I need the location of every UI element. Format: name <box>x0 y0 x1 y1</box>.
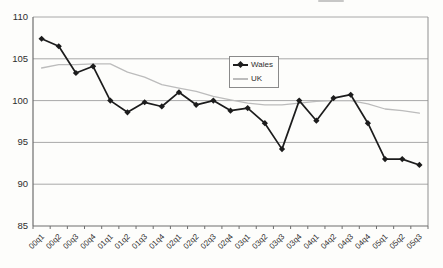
line-chart-figure: 85909510010511000q100q200q300q401q101q20… <box>0 0 443 268</box>
x-axis-label-01q1: 01q1 <box>96 232 115 251</box>
x-axis-label-00q3: 00q3 <box>61 232 80 251</box>
wales-data-point-05q2 <box>399 156 405 162</box>
y-axis-label-105: 105 <box>12 53 28 64</box>
legend-label-uk: UK <box>251 75 262 83</box>
x-axis-label-05q2: 05q2 <box>388 232 407 251</box>
x-axis-label-05q3: 05q3 <box>405 232 424 251</box>
x-axis-label-02q4: 02q4 <box>216 232 235 251</box>
x-axis-label-00q1: 00q1 <box>27 232 46 251</box>
x-axis-label-03q1: 03q1 <box>233 232 252 251</box>
legend-item-wales: Wales <box>233 59 275 72</box>
legend-item-uk: UK <box>233 72 275 85</box>
y-axis-label-95: 95 <box>17 136 28 147</box>
x-axis-label-04q4: 04q4 <box>353 232 372 251</box>
x-axis-label-03q4: 03q4 <box>285 232 304 251</box>
wales-data-point-00q1 <box>38 36 44 42</box>
x-axis-label-02q3: 02q3 <box>199 232 218 251</box>
x-axis-label-02q2: 02q2 <box>182 232 201 251</box>
chart-legend: Wales UK <box>229 56 279 88</box>
x-axis-label-04q3: 04q3 <box>336 232 355 251</box>
chart-plot-area: 85909510010511000q100q200q300q401q101q20… <box>0 0 443 268</box>
y-axis-label-100: 100 <box>12 95 28 106</box>
wales-line-diamond-marker-icon <box>233 64 248 66</box>
x-axis-label-01q3: 01q3 <box>130 232 149 251</box>
x-axis-label-01q2: 01q2 <box>113 232 132 251</box>
x-axis-label-05q1: 05q1 <box>371 232 390 251</box>
x-axis-label-02q1: 02q1 <box>164 232 183 251</box>
x-axis-label-01q4: 01q4 <box>147 232 166 251</box>
x-axis-label-04q2: 04q2 <box>319 232 338 251</box>
uk-line-icon <box>233 78 248 80</box>
y-axis-label-110: 110 <box>13 11 28 22</box>
y-axis-label-90: 90 <box>17 178 28 189</box>
legend-label-wales: Wales <box>251 61 273 69</box>
x-axis-label-03q3: 03q3 <box>267 232 286 251</box>
x-axis-label-00q4: 00q4 <box>79 232 98 251</box>
x-axis-label-00q2: 00q2 <box>44 232 63 251</box>
x-axis-label-03q2: 03q2 <box>250 232 269 251</box>
y-axis-label-85: 85 <box>17 220 28 231</box>
x-axis-label-04q1: 04q1 <box>302 232 321 251</box>
wales-data-point-05q3 <box>416 162 422 168</box>
wales-data-point-05q1 <box>382 156 388 162</box>
